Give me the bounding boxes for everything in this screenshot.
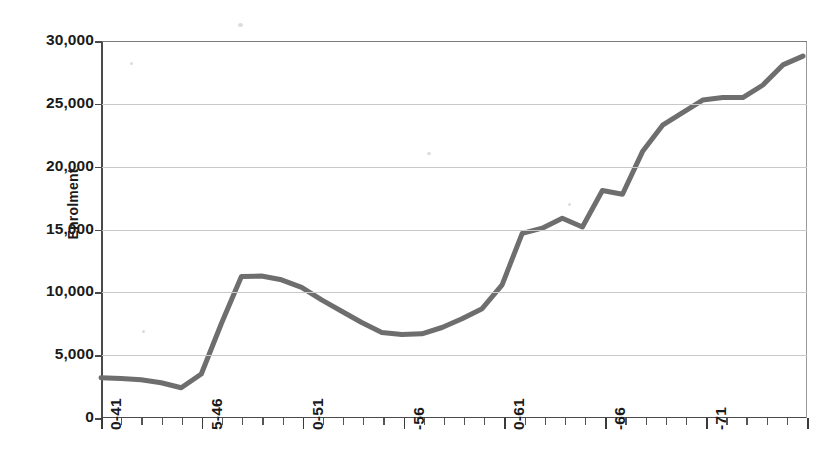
x-tick-mark [262, 418, 263, 425]
x-tick-mark [484, 418, 485, 425]
x-tick-mark [141, 418, 142, 425]
gridline [101, 167, 807, 168]
x-tick-mark [424, 418, 425, 425]
x-tick-mark [343, 418, 344, 425]
x-tick-mark [525, 418, 526, 425]
x-tick-mark [585, 418, 586, 425]
x-tick-mark [363, 418, 364, 425]
x-tick-mark [444, 418, 445, 425]
x-tick-mark-major [303, 418, 305, 429]
x-tick-mark [121, 418, 122, 425]
y-tick-mark [95, 230, 102, 232]
paper-speck [238, 23, 243, 27]
x-tick-mark [545, 418, 546, 425]
y-axis-tick-labels: 30,00025,00020,00015,00010,0005,0000 [0, 0, 94, 462]
y-tick-label: 30,000 [6, 31, 94, 49]
x-tick-mark-major [202, 418, 204, 429]
y-tick-mark [95, 41, 102, 43]
x-tick-mark [726, 418, 727, 425]
x-tick-mark-major [605, 418, 607, 429]
x-tick-mark [464, 418, 465, 425]
x-tick-mark [767, 418, 768, 425]
y-tick-label: 25,000 [6, 94, 94, 112]
x-tick-mark [646, 418, 647, 425]
y-tick-mark [95, 104, 102, 106]
x-tick-mark-major [504, 418, 506, 429]
x-tick-mark [666, 418, 667, 425]
enrolment-line-path [101, 56, 803, 388]
x-tick-mark-major [706, 418, 708, 429]
x-tick-mark-major [807, 418, 809, 429]
gridline [101, 355, 807, 356]
y-tick-label: 10,000 [6, 282, 94, 300]
y-tick-mark [95, 355, 102, 357]
gridline [101, 104, 807, 105]
y-tick-label: 0 [6, 408, 94, 426]
gridline [101, 292, 807, 293]
chart-root: Enrolment 30,00025,00020,00015,00010,000… [0, 0, 823, 462]
gridline [101, 230, 807, 231]
x-tick-mark [182, 418, 183, 425]
plot-area [101, 41, 807, 418]
x-tick-mark-major [404, 418, 406, 429]
x-tick-mark [162, 418, 163, 425]
y-tick-label: 20,000 [6, 157, 94, 175]
gridline [101, 41, 807, 42]
x-tick-mark [686, 418, 687, 425]
x-tick-mark [787, 418, 788, 425]
y-tick-mark [95, 167, 102, 169]
x-tick-mark [625, 418, 626, 425]
x-tick-mark [242, 418, 243, 425]
x-tick-mark [383, 418, 384, 425]
x-tick-mark [746, 418, 747, 425]
x-tick-mark [565, 418, 566, 425]
x-tick-mark [323, 418, 324, 425]
y-tick-label: 15,000 [6, 220, 94, 238]
x-tick-mark [283, 418, 284, 425]
y-tick-label: 5,000 [6, 345, 94, 363]
x-tick-mark-major [101, 418, 103, 429]
x-tick-mark [222, 418, 223, 425]
y-tick-mark [95, 292, 102, 294]
